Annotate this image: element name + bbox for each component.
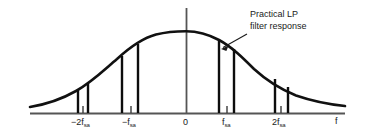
tick-label-neg-fsa: −fsa: [122, 117, 136, 127]
sampling-spectrum-figure: −2fsa −fsa 0 fsa 2fsa f Practical LP fil…: [0, 0, 377, 139]
tick-label-origin: 0: [183, 117, 188, 127]
axis-label-frequency-text: f: [335, 116, 338, 126]
figure-canvas: [0, 0, 377, 139]
tick-label-pos-fsa: fsa: [222, 117, 230, 127]
tick-label-pos-2fsa-sub: sa: [280, 122, 286, 128]
tick-label-origin-main: 0: [183, 117, 188, 127]
tick-label-neg-fsa-main: −f: [122, 117, 130, 127]
tick-label-neg-fsa-sub: sa: [130, 122, 136, 128]
axis-tick-marks: [83, 106, 281, 113]
annotation-line-2: filter response: [250, 21, 307, 33]
annotation-leader-line: [223, 34, 247, 48]
tick-label-pos-2fsa: 2fsa: [272, 117, 285, 127]
tick-label-neg-2fsa-main: −2f: [71, 117, 84, 127]
tick-label-pos-2fsa-main: 2f: [272, 117, 280, 127]
tick-label-pos-fsa-sub: sa: [225, 122, 231, 128]
filter-response-annotation: Practical LP filter response: [250, 9, 307, 32]
annotation-line-1: Practical LP: [250, 9, 307, 21]
spectral-impulse-lines: [78, 41, 288, 113]
axis-label-frequency: f: [335, 116, 338, 126]
tick-label-neg-2fsa: −2fsa: [71, 117, 90, 127]
tick-label-neg-2fsa-sub: sa: [84, 122, 90, 128]
